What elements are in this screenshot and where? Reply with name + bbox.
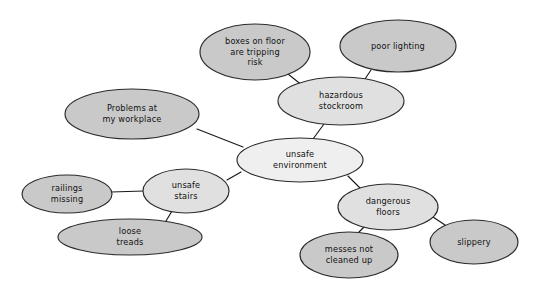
node-label-hazardous-stockroom: hazardous	[319, 90, 363, 100]
node-label-problems: my workplace	[102, 114, 161, 124]
mind-map-diagram: Problems atmy workplaceboxes on floorare…	[0, 0, 537, 293]
node-label-unsafe-environment: environment	[273, 160, 327, 170]
node-messes-not-cleaned-up[interactable]: messes notcleaned up	[300, 232, 398, 278]
edge-center-stairs	[227, 172, 241, 180]
node-label-dangerous-floors: dangerous	[366, 196, 411, 206]
node-railings-missing[interactable]: railingsmissing	[22, 175, 112, 213]
node-hazardous-stockroom[interactable]: hazardousstockroom	[278, 77, 404, 125]
node-boxes[interactable]: boxes on floorare trippingrisk	[200, 24, 310, 80]
edge-stockroom-center	[313, 124, 324, 139]
edge-center-floors	[348, 176, 361, 189]
node-label-poor-lighting: poor lighting	[371, 41, 425, 51]
node-label-boxes: boxes on floor	[225, 36, 285, 46]
node-label-loose-treads: treads	[117, 237, 144, 247]
node-poor-lighting[interactable]: poor lighting	[340, 20, 456, 72]
node-label-hazardous-stockroom: stockroom	[319, 101, 363, 111]
node-loose-treads[interactable]: loosetreads	[58, 219, 202, 255]
node-label-railings-missing: missing	[51, 194, 84, 204]
nodes-layer: Problems atmy workplaceboxes on floorare…	[22, 20, 518, 278]
edge-problems-center	[197, 129, 243, 147]
node-label-unsafe-environment: unsafe	[286, 149, 314, 159]
node-label-loose-treads: loose	[119, 226, 141, 236]
node-unsafe-environment[interactable]: unsafeenvironment	[237, 138, 363, 182]
node-label-messes-not-cleaned-up: messes not	[325, 244, 374, 254]
node-label-railings-missing: railings	[51, 183, 82, 193]
node-label-boxes: risk	[247, 57, 262, 67]
node-label-problems: Problems at	[107, 103, 158, 113]
node-label-slippery: slippery	[457, 237, 491, 247]
mind-map-canvas: Problems atmy workplaceboxes on floorare…	[0, 0, 537, 293]
node-slippery[interactable]: slippery	[430, 220, 518, 264]
node-dangerous-floors[interactable]: dangerousfloors	[338, 184, 438, 230]
edge-lighting-stockroom	[365, 70, 371, 79]
node-unsafe-stairs[interactable]: unsafestairs	[143, 169, 229, 213]
node-label-dangerous-floors: floors	[376, 207, 400, 217]
node-label-messes-not-cleaned-up: cleaned up	[326, 255, 373, 265]
node-problems[interactable]: Problems atmy workplace	[65, 89, 199, 139]
node-label-unsafe-stairs: unsafe	[172, 180, 200, 190]
node-label-unsafe-stairs: stairs	[174, 191, 197, 201]
edge-railings-stairs	[111, 191, 144, 192]
node-label-boxes: are tripping	[230, 47, 280, 57]
